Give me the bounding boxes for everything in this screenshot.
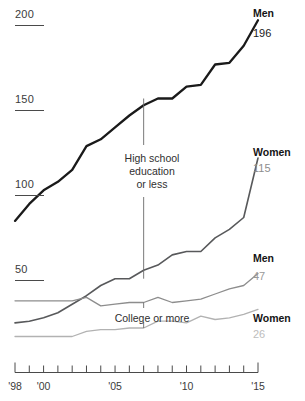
x-axis-tick-label: '05: [108, 380, 122, 392]
annotation-college: College or more: [115, 312, 190, 325]
series-value-women-college: 26: [253, 328, 265, 340]
series-value-men-college: 47: [253, 270, 265, 282]
series-value-men-high-school: 196: [253, 27, 271, 39]
x-axis-tick-label: '15: [251, 380, 265, 392]
y-axis-tick-rule: [15, 110, 44, 111]
series-label-men-college: Men: [253, 252, 274, 264]
y-axis-tick-rule: [15, 280, 44, 281]
chart-container: 20015010050 '98'00'05'10'15 Men 196 Wome…: [0, 0, 305, 401]
y-axis-tick-label: 200: [15, 8, 34, 20]
x-axis-tick-label: '10: [180, 380, 194, 392]
series-label-men-high-school: Men: [253, 7, 274, 19]
series-label-women-high-school: Women: [253, 146, 291, 158]
series-label-women-college: Women: [253, 312, 291, 324]
y-axis-tick-label: 100: [15, 178, 34, 190]
chart-plot-area: [0, 0, 305, 401]
y-axis-tick-rule: [15, 25, 44, 26]
x-axis-tick-label: '00: [37, 380, 51, 392]
y-axis-tick-label: 50: [15, 263, 28, 275]
x-axis: [15, 363, 258, 373]
y-axis-tick-label: 150: [15, 93, 34, 105]
annotation-college-line-1: College or more: [115, 312, 190, 325]
series-line-college-men: [15, 274, 258, 306]
x-axis-tick-label: '98: [8, 380, 22, 392]
annotation-high-school: High school education or less: [125, 152, 180, 191]
annotation-high-school-line-2: education: [125, 165, 180, 178]
y-axis-tick-rule: [15, 195, 44, 196]
annotation-high-school-line-3: or less: [125, 178, 180, 191]
series-value-women-high-school: 115: [253, 162, 271, 174]
annotation-high-school-line-1: High school: [125, 152, 180, 165]
